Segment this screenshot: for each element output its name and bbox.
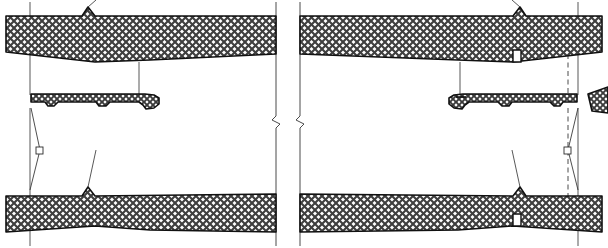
upper-member-left-segment (6, 7, 276, 62)
leader-whisker-upper-right (512, 0, 520, 7)
lower-member-right-segment (300, 187, 602, 232)
upper-member-right-segment (300, 7, 602, 62)
lower-member-left-segment (6, 187, 276, 232)
leader-whisker-upper-left (88, 0, 96, 7)
leader-marker-left (36, 147, 43, 154)
drawing-svg (0, 0, 608, 248)
leader-marker-right (564, 147, 571, 154)
right-detail-body (449, 94, 577, 109)
far-right-wedge-fragment (588, 87, 608, 113)
left-detail-section (31, 94, 159, 109)
upper-right-tip-notch (513, 50, 521, 62)
leader-whisker-lower-right (512, 150, 520, 187)
leader-right-group (564, 108, 578, 190)
right-detail-section (449, 94, 577, 109)
leader-whisker-lower-left (88, 150, 96, 187)
left-detail-body (31, 94, 159, 109)
lower-right-tip-notch (513, 214, 521, 226)
leader-left-group (30, 108, 43, 190)
technical-drawing-canvas: Sectional Assembly Drawing longitudinal … (0, 0, 608, 248)
